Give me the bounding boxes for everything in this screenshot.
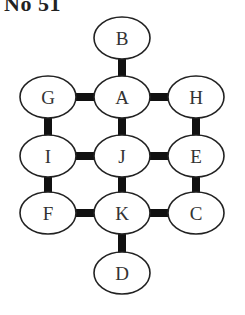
node-label: F <box>43 203 54 224</box>
node-label: A <box>115 87 129 108</box>
node-c: C <box>168 192 224 234</box>
node-label: G <box>41 87 55 108</box>
node-label: H <box>189 87 203 108</box>
node-g: G <box>20 76 76 118</box>
node-label: D <box>115 263 129 284</box>
node-e: E <box>168 135 224 177</box>
node-j: J <box>94 135 150 177</box>
node-graph: BGAHIJEFKCD <box>0 0 245 315</box>
node-label: K <box>115 203 129 224</box>
node-b: B <box>94 17 150 59</box>
nodes-layer: BGAHIJEFKCD <box>20 17 224 294</box>
node-h: H <box>168 76 224 118</box>
node-label: I <box>45 146 51 167</box>
node-label: C <box>190 203 203 224</box>
node-label: B <box>116 28 129 49</box>
node-i: I <box>20 135 76 177</box>
node-k: K <box>94 192 150 234</box>
node-f: F <box>20 192 76 234</box>
node-label: J <box>118 146 125 167</box>
node-label: E <box>190 146 202 167</box>
node-a: A <box>94 76 150 118</box>
node-d: D <box>94 252 150 294</box>
